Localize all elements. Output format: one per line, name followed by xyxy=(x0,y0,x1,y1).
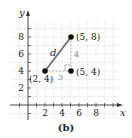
point-label-5-8: (5, 8) xyxy=(76,32,100,42)
y-tick-label: 2 xyxy=(18,83,24,93)
point-5-4 xyxy=(68,68,74,74)
point-label-2-4: (2, 4) xyxy=(29,74,53,84)
point-label-5-4: (5, 4) xyxy=(76,67,100,77)
point-2-4 xyxy=(42,68,48,74)
axes xyxy=(10,14,119,120)
x-tick-label: 4 xyxy=(59,108,65,118)
y-tick-label: 8 xyxy=(18,32,24,42)
x-tick-label: 8 xyxy=(93,108,99,118)
y-tick-label: 6 xyxy=(18,49,24,59)
y-axis-arrow-icon xyxy=(26,10,30,16)
x-tick-label: 2 xyxy=(42,108,48,118)
figure-caption: (b) xyxy=(0,122,132,133)
x-axis-label: x xyxy=(120,107,126,118)
vertical-leg-label: 4 xyxy=(74,50,79,59)
coordinate-plane: 2 4 6 8 2 4 6 8 x y (2, 4) (5, 8) (5, 4)… xyxy=(0,0,132,138)
y-axis-label: y xyxy=(18,7,25,18)
y-ticks xyxy=(28,29,31,114)
horizontal-leg-label: 3 xyxy=(58,73,63,82)
y-tick-label: 4 xyxy=(18,66,24,76)
distance-label: d xyxy=(50,47,56,58)
point-5-8 xyxy=(68,34,74,40)
x-tick-label: 6 xyxy=(76,108,82,118)
